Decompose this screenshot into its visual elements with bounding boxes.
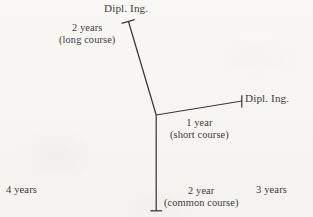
node-label-dipl-ing-top: Dipl. Ing. [104, 2, 148, 15]
edge-label-long-course: 2 years (long course) [59, 22, 115, 45]
edge-label-short-course: 1 year (short course) [170, 117, 229, 140]
edge-label-common-course: 2 year (common course) [164, 185, 239, 208]
degree-pathway-diagram: Dipl. Ing. Dipl. Ing. 2 years (long cour… [0, 0, 313, 217]
edge-common-course-duration: 2 year [164, 185, 239, 197]
edge-long-course-duration: 2 years [59, 22, 115, 34]
edge-short-course-course: (short course) [170, 129, 229, 141]
edge-short-course-line [156, 101, 242, 115]
edge-long-course-course: (long course) [59, 34, 115, 46]
span-label-right: 3 years [256, 184, 287, 196]
node-dipl-ing-top-cap [122, 20, 135, 24]
edge-short-course-duration: 1 year [170, 117, 229, 129]
edge-common-course-course: (common course) [164, 197, 239, 209]
edge-long-course-line [128, 21, 156, 115]
span-label-left: 4 years [6, 184, 37, 196]
node-label-dipl-ing-right: Dipl. Ing. [245, 92, 289, 105]
